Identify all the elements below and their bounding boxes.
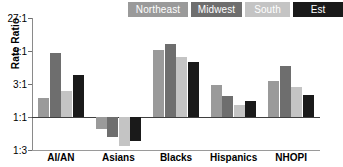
legend-label: Northeast <box>136 5 180 15</box>
bar <box>38 98 49 117</box>
chart-legend: NortheastMidwestSouthEst <box>128 2 343 17</box>
plot-area: 27:19:13:11:11:3 <box>32 18 320 150</box>
bar <box>107 117 118 137</box>
x-axis-labels: AI/ANAsiansBlacksHispanicsNHOPI <box>32 152 320 166</box>
bar <box>176 57 187 117</box>
legend-item-midwest[interactable]: Midwest <box>191 2 242 17</box>
legend-label: Est <box>311 5 326 15</box>
y-tick-label: 27:1 <box>8 13 27 24</box>
bar <box>245 101 256 117</box>
x-axis-line <box>32 150 320 151</box>
bar <box>130 117 141 141</box>
bar <box>165 44 176 117</box>
y-axis-line <box>32 18 33 150</box>
bar <box>119 117 130 146</box>
y-tick-label: 1:1 <box>13 111 27 122</box>
reference-line-1to1 <box>32 117 320 118</box>
x-label-asians: Asians <box>102 152 135 163</box>
legend-label: Midwest <box>198 5 235 15</box>
y-tick-label: 3:1 <box>13 78 27 89</box>
x-label-hispanics: Hispanics <box>210 152 257 163</box>
bar <box>280 66 291 117</box>
x-label-blacks: Blacks <box>160 152 192 163</box>
bar <box>268 81 279 117</box>
bar <box>222 96 233 117</box>
bar <box>73 75 84 117</box>
bar <box>188 62 199 117</box>
x-label-nhopi: NHOPI <box>275 152 307 163</box>
bar <box>96 117 107 129</box>
legend-item-est[interactable]: Est <box>293 2 343 17</box>
bar <box>303 95 314 117</box>
y-tick-label: 9:1 <box>13 45 27 56</box>
bar <box>153 50 164 117</box>
bar <box>291 87 302 117</box>
y-tick-mark <box>28 18 32 19</box>
legend-item-south[interactable]: South <box>245 2 290 17</box>
y-tick-mark <box>28 84 32 85</box>
y-tick-label: 1:3 <box>13 145 27 156</box>
legend-label: South <box>254 5 281 15</box>
x-label-ai-an: AI/AN <box>47 152 74 163</box>
bar <box>211 85 222 117</box>
bar <box>61 91 72 117</box>
y-tick-mark <box>28 51 32 52</box>
legend-item-northeast[interactable]: Northeast <box>128 2 188 17</box>
bar <box>234 105 245 117</box>
bar <box>50 53 61 117</box>
